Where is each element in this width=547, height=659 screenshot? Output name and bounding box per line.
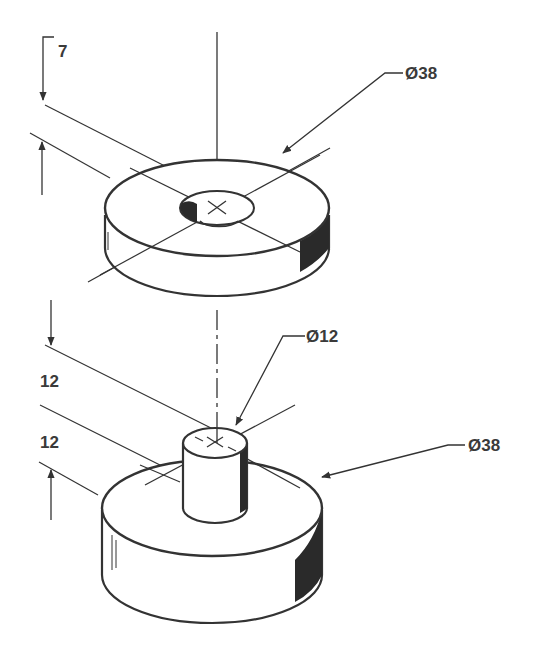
label-base-diameter: Ø38 <box>468 436 500 455</box>
leader-base-diameter <box>322 445 465 477</box>
leader-top-diameter <box>283 73 403 153</box>
label-boss-diameter: Ø12 <box>306 327 338 346</box>
label-boss-height: 12 <box>40 372 59 391</box>
top-washer <box>45 32 330 296</box>
boss-shading <box>240 443 247 513</box>
boss-top-face <box>183 428 247 458</box>
dimension-top-thickness <box>30 37 110 195</box>
label-top-thickness: 7 <box>58 42 67 61</box>
label-top-diameter: Ø38 <box>405 64 437 83</box>
dimension-heights <box>39 300 98 520</box>
leader-boss-diameter <box>236 336 305 425</box>
label-base-height: 12 <box>40 433 59 452</box>
drawing-canvas: 7 Ø38 12 12 <box>0 0 547 659</box>
bottom-part <box>40 345 322 623</box>
